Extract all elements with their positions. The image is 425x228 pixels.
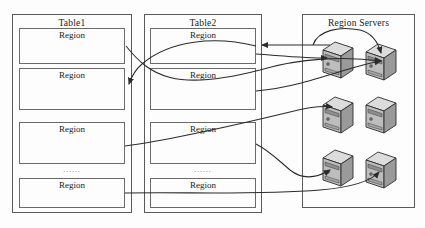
region-label: Region xyxy=(151,180,255,190)
server-tower-icon xyxy=(321,40,355,80)
region-box-table1-3: Region xyxy=(19,122,125,164)
region-label: Region xyxy=(20,70,124,80)
region-box-table2-1: Region xyxy=(150,28,256,64)
panel-title-table2: Table2 xyxy=(145,18,261,28)
region-label: Region xyxy=(151,70,255,80)
region-box-table2-2: Region xyxy=(150,68,256,110)
server-tower-icon xyxy=(364,150,398,190)
server-tower-icon xyxy=(321,148,355,188)
ellipsis-table2: ...... xyxy=(150,165,256,174)
panel-title-table1: Table1 xyxy=(13,18,131,28)
region-box-table1-1: Region xyxy=(19,28,125,64)
server-tower-icon xyxy=(364,42,398,82)
panel-region-servers: Region Servers xyxy=(302,14,415,208)
ellipsis-table1: ...... xyxy=(19,165,125,174)
region-label: Region xyxy=(20,180,124,190)
server-tower-icon xyxy=(364,95,398,135)
region-label: Region xyxy=(151,30,255,40)
region-label: Region xyxy=(151,124,255,134)
region-box-table1-4: Region xyxy=(19,178,125,208)
region-label: Region xyxy=(20,124,124,134)
server-tower-icon xyxy=(321,95,355,135)
region-label: Region xyxy=(20,30,124,40)
region-box-table1-2: Region xyxy=(19,68,125,110)
panel-title-region-servers: Region Servers xyxy=(303,18,414,28)
diagram-canvas: Table1 Region Region Region ...... Regio… xyxy=(0,0,425,228)
region-box-table2-3: Region xyxy=(150,122,256,164)
region-box-table2-4: Region xyxy=(150,178,256,208)
